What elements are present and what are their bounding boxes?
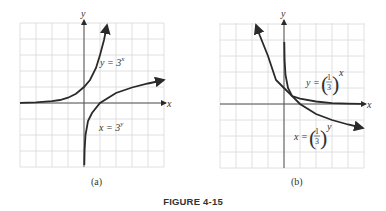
label-x-eq-third-pow-y: x = ( 1 3 ) y: [293, 121, 332, 150]
svg-text:1: 1: [315, 127, 319, 136]
y-label-b: y: [280, 8, 286, 19]
x-label-b: x: [366, 99, 372, 110]
curve-y-eq-third-pow-x: [256, 25, 362, 104]
label-y-eq-3-pow-x: y = 3x: [99, 55, 125, 68]
x-label-a: x: [166, 98, 172, 109]
svg-text:3: 3: [327, 83, 331, 92]
curve-x-eq-3-pow-y: [84, 80, 164, 165]
figure-canvas: y x y x y = 3x x = 3y y = ( 1 3 ) x x = …: [0, 0, 386, 211]
grid-a: [20, 23, 164, 167]
label-x-eq-3-pow-y: x = 3y: [98, 120, 124, 133]
svg-text:x: x: [338, 67, 344, 78]
svg-text:y: y: [326, 121, 332, 132]
caption-a: (a): [91, 176, 102, 187]
figure-title: FIGURE 4-15: [0, 196, 386, 207]
caption-b: (b): [291, 176, 303, 187]
label-y-eq-third-pow-x: y = ( 1 3 ) x: [305, 67, 344, 96]
svg-text:x =: x =: [293, 131, 308, 142]
svg-text:3: 3: [315, 137, 319, 146]
y-label-a: y: [80, 8, 86, 19]
curve-y-eq-3-pow-x: [20, 25, 107, 103]
svg-text:y =: y =: [305, 77, 320, 88]
svg-text:1: 1: [327, 73, 331, 82]
